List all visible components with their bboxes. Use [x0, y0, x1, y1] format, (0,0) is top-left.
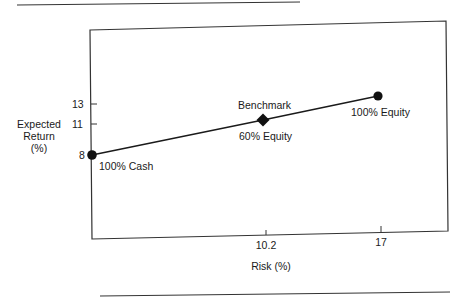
bottom-rule	[100, 292, 450, 296]
y-tick-13: 13	[72, 98, 84, 110]
cash-point-marker	[87, 150, 97, 160]
y-tick-11: 11	[72, 118, 83, 130]
equity-point-label: 100% Equity	[351, 106, 411, 118]
x-tick-10-2: 10.2	[256, 239, 277, 251]
benchmark-title-label: Benchmark	[238, 99, 292, 111]
portfolio-line	[92, 96, 378, 155]
x-tick-17: 17	[375, 236, 387, 248]
benchmark-diamond-marker	[257, 114, 270, 127]
equity-point-marker	[373, 91, 382, 100]
y-tick-8: 8	[79, 149, 85, 161]
y-axis-label-line2: Return	[23, 130, 55, 142]
top-rule	[17, 2, 300, 5]
x-axis-label: Risk (%)	[251, 260, 291, 272]
y-axis-label-line1: Expected	[17, 118, 61, 130]
y-axis-ticks	[91, 104, 97, 124]
cash-point-label: 100% Cash	[99, 160, 153, 172]
y-axis-label-line3: (%)	[31, 142, 47, 154]
benchmark-point-label: 60% Equity	[239, 130, 293, 142]
risk-return-chart: 13 11 8 Expected Return (%) 10.2 17 Risk…	[0, 0, 467, 297]
